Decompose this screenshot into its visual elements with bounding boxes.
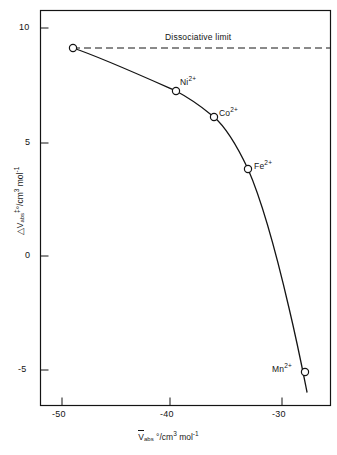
data-markers: [69, 44, 308, 375]
x-axis-label-units: °/cm: [154, 432, 173, 442]
point-label-mn: Mn2+: [272, 364, 292, 374]
y-axis-label-sub: abs: [19, 213, 25, 223]
data-point-mn: [301, 368, 308, 375]
y-axis-label-delta: △V: [15, 223, 25, 236]
y-tick-label-5: 5: [25, 137, 30, 147]
x-axis-label-mol: mol: [177, 432, 193, 442]
y-axis-label-mol: mol: [15, 173, 25, 189]
data-point-ni: [172, 87, 179, 94]
data-curve: [73, 48, 307, 392]
y-axis-label-cube: 3: [13, 189, 20, 193]
x-axis-label: Vabs °/cm3 mol-1: [0, 432, 337, 442]
data-point-co: [210, 113, 217, 120]
data-point-0: [69, 44, 76, 51]
point-label-co: Co2+: [219, 108, 238, 118]
x-tick-label-minus50: -50: [52, 409, 66, 419]
x-axis-ticks: [62, 398, 282, 406]
y-tick-label-0: 0: [25, 250, 30, 260]
point-label-ni: Ni2+: [180, 77, 196, 87]
x-axis-label-vbar: V: [138, 432, 144, 442]
x-axis-label-sub: abs: [144, 436, 154, 442]
y-tick-label-10: 10: [19, 22, 29, 32]
y-tick-label-minus5: -5: [18, 364, 26, 374]
point-label-fe: Fe2+: [254, 161, 272, 171]
plot-frame: [41, 11, 331, 406]
y-axis-label: △Vabs‡°/cm3 mol-1: [15, 155, 25, 247]
point-label-co-element: Co: [219, 108, 230, 118]
y-axis-label-units: °/cm: [15, 192, 25, 209]
x-axis-label-exp: -1: [193, 430, 199, 437]
y-axis-label-exp: -1: [13, 167, 20, 173]
point-label-mn-element: Mn: [272, 364, 284, 374]
y-axis-label-dagger: ‡: [13, 209, 20, 213]
point-label-fe-charge: 2+: [264, 159, 272, 166]
point-label-fe-element: Fe: [254, 161, 264, 171]
point-label-co-charge: 2+: [230, 106, 238, 113]
point-label-mn-charge: 2+: [284, 362, 292, 369]
x-tick-label-minus40: -40: [160, 409, 174, 419]
point-label-ni-charge: 2+: [188, 75, 196, 82]
x-tick-label-minus30: -30: [272, 409, 286, 419]
chart-canvas: [0, 0, 337, 455]
dissociative-limit-label: Dissociative limit: [165, 32, 231, 42]
chart-figure: 10 5 0 -5 -50 -40 -30 Dissociative limit…: [0, 0, 337, 455]
data-point-fe: [244, 165, 251, 172]
y-axis-ticks: [41, 28, 49, 370]
